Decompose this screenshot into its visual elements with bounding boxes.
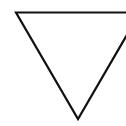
triangle-diagram — [0, 0, 126, 126]
inverted-triangle-icon — [16, 13, 126, 120]
